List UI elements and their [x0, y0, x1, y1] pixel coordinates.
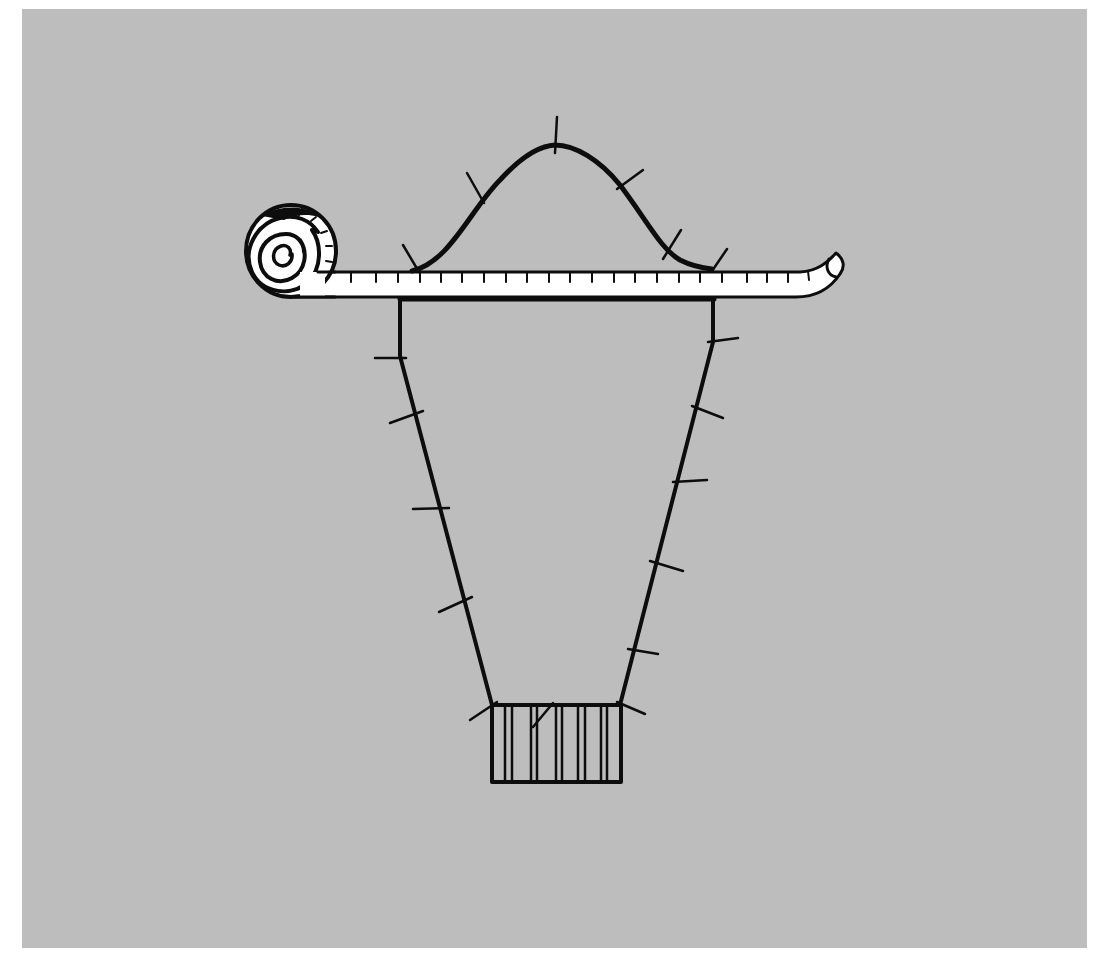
cuff-band: [492, 705, 621, 782]
pin-icon: [712, 245, 732, 272]
pin-icon: [692, 406, 728, 423]
pin-icon: [617, 166, 648, 190]
pin-icon: [463, 169, 485, 204]
sleeve-pattern-piece: [400, 299, 714, 705]
tape-measure: [246, 205, 843, 297]
sewing-pins: [371, 113, 743, 732]
pin-icon: [399, 241, 420, 273]
sleeve-pattern-illustration: [0, 0, 1097, 962]
tape-roll: [246, 205, 336, 297]
cuff-stripes: [505, 707, 607, 780]
tape-strip: [300, 253, 843, 297]
